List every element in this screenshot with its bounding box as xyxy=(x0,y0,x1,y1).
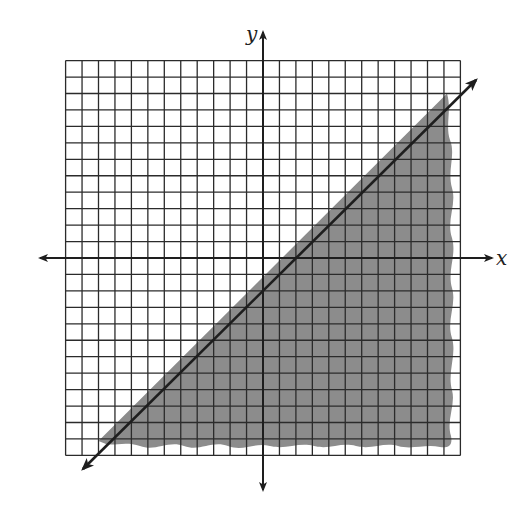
y-axis-label: y xyxy=(246,24,257,44)
x-axis-label: x xyxy=(496,248,507,268)
shaded-region xyxy=(99,94,454,448)
coordinate-plane xyxy=(0,0,527,505)
